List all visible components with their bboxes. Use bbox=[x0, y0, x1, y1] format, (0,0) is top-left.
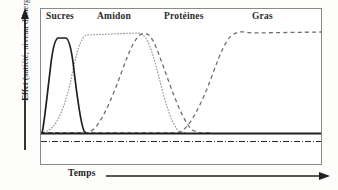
x-axis-arrow-icon bbox=[106, 172, 330, 180]
x-axis-label: Temps bbox=[68, 168, 96, 178]
y-axis-label-rest: (satiété, niveau d'énergie) bbox=[20, 0, 30, 82]
curve-label-proteines: Protéines bbox=[164, 11, 204, 21]
y-axis-label-bold: Effet bbox=[20, 82, 30, 101]
curve-label-amidon: Amidon bbox=[97, 11, 131, 21]
curve-label-gras: Gras bbox=[252, 11, 273, 21]
chart-canvas bbox=[0, 0, 338, 190]
y-axis-label: Effet (satiété, niveau d'énergie) bbox=[14, 0, 28, 110]
nutrition-effect-chart: Sucres Amidon Protéines Gras Effet (sati… bbox=[0, 0, 338, 190]
curve-label-sucres: Sucres bbox=[46, 11, 74, 21]
